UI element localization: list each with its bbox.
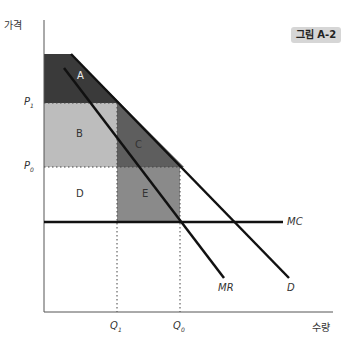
p1-label: P1: [24, 96, 34, 109]
mr-label: MR: [218, 282, 234, 293]
y-axis-label: 가격: [4, 17, 22, 32]
q0-label: Q0: [173, 320, 185, 333]
region-c-label: C: [135, 139, 142, 150]
x-axis-label: 수량: [312, 319, 330, 334]
diagram-canvas: [0, 0, 363, 350]
region-a-label: A: [77, 70, 84, 81]
d-label: D: [287, 282, 295, 293]
region-d-label: D: [76, 188, 84, 199]
figure-badge: 그림 A-2: [291, 27, 341, 43]
region-e: [117, 167, 180, 222]
region-e-label: E: [142, 188, 148, 199]
mc-label: MC: [287, 216, 303, 227]
region-b-label: B: [76, 128, 83, 139]
p0-label: P0: [24, 160, 34, 173]
q1-label: Q1: [110, 320, 122, 333]
mr-curve: [64, 68, 224, 278]
